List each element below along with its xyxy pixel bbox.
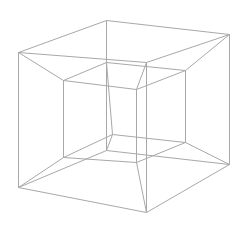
edge-e-h xyxy=(64,158,137,163)
edge-E-F xyxy=(19,151,107,188)
edge-a-b xyxy=(64,63,107,81)
edge-E-H xyxy=(19,188,147,213)
edge-H-h xyxy=(137,163,147,213)
edge-D-d xyxy=(137,63,147,90)
edge-A-D xyxy=(19,53,147,63)
edge-h-g xyxy=(137,143,186,163)
edge-F-G xyxy=(107,151,230,165)
edge-d-c xyxy=(137,71,186,90)
edge-a-d xyxy=(64,81,137,90)
edge-A-a xyxy=(19,53,64,81)
edge-B-C xyxy=(107,21,230,35)
edge-C-c xyxy=(186,35,230,71)
edge-e-f xyxy=(64,135,113,158)
edge-A-B xyxy=(19,21,107,53)
edge-E-e xyxy=(19,158,64,188)
edge-f-g xyxy=(113,135,186,143)
tesseract-diagram xyxy=(0,0,244,231)
edge-b-f xyxy=(107,63,113,135)
edge-H-G xyxy=(147,165,230,213)
edge-G-g xyxy=(186,143,230,165)
edge-D-C xyxy=(147,35,230,63)
